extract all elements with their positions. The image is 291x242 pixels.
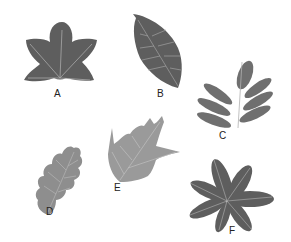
leaf-e-icon xyxy=(108,116,180,182)
label-a: A xyxy=(54,89,61,99)
leaf-d-icon xyxy=(36,146,82,215)
label-c: C xyxy=(219,131,226,141)
leaf-f-icon xyxy=(187,157,274,235)
leaf-diagram: A B C D E F xyxy=(0,0,291,242)
label-f: F xyxy=(229,226,235,236)
label-d: D xyxy=(46,207,53,217)
leaf-c-icon xyxy=(195,59,275,131)
label-e: E xyxy=(114,183,121,193)
label-b: B xyxy=(157,89,164,99)
leaf-a-icon xyxy=(24,22,97,81)
leaf-illustrations xyxy=(0,0,291,242)
leaf-b-icon xyxy=(133,14,182,88)
